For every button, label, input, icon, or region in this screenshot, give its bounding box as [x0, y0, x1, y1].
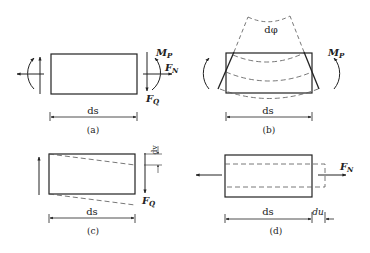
- caption-a: (a): [87, 125, 99, 135]
- normal-force-label: FN: [339, 161, 354, 174]
- shear-force-label: FQ: [145, 93, 159, 106]
- caption-c: (c): [87, 226, 99, 236]
- ds-label: ds: [86, 206, 98, 217]
- panel-a: MP FN FQ ds (a): [17, 47, 179, 135]
- angle-label: dφ: [264, 24, 277, 35]
- dv-label: dv: [150, 145, 159, 155]
- left-forces: [17, 57, 44, 94]
- caption-d: (d): [270, 226, 283, 236]
- element-rectangle: [49, 154, 135, 194]
- du-label: du: [312, 207, 324, 217]
- shear-force-label: FQ: [141, 195, 155, 208]
- ds-label: ds: [87, 105, 99, 116]
- normal-force-label: FN: [164, 62, 179, 75]
- panel-c: FQ dv ds (c): [39, 145, 162, 236]
- ds-label: ds: [262, 206, 274, 217]
- element-rectangle: [226, 53, 312, 93]
- ds-label: ds: [262, 105, 274, 116]
- dimension-du: [325, 212, 334, 223]
- panel-d: FN ds du (d): [196, 155, 354, 236]
- element-rectangle: [51, 54, 137, 94]
- caption-b: (b): [263, 125, 276, 135]
- deformation-diagram: MP FN FQ ds (a) dφ MP: [0, 0, 370, 253]
- moment-label: MP: [327, 47, 345, 60]
- panel-b: dφ MP ds (b): [203, 16, 345, 135]
- element-rectangle: [225, 155, 312, 197]
- moment-label: MP: [155, 47, 173, 60]
